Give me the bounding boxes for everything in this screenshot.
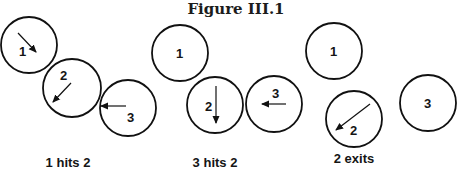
- ball-2: 2: [326, 91, 382, 147]
- ball-label: 1: [330, 44, 337, 59]
- ball-label: 3: [127, 110, 134, 125]
- figure-title: Figure III.1: [187, 0, 284, 18]
- ball-label: 1: [176, 46, 183, 61]
- ball-label: 1: [19, 44, 26, 59]
- ball-2: 2: [43, 59, 101, 117]
- ball-3: 3: [246, 76, 302, 132]
- ball-2: 2: [187, 77, 243, 133]
- ball-1: 1: [1, 17, 57, 73]
- ball-3: 3: [100, 80, 156, 136]
- panel-2: 1233 hits 2: [152, 25, 302, 170]
- ball-label: 2: [205, 99, 212, 114]
- ball-circle: [100, 80, 156, 136]
- ball-1: 1: [306, 23, 362, 79]
- ball-circle: [326, 91, 382, 147]
- collision-diagram: Figure III.1 1231 hits 21233 hits 21232 …: [0, 0, 459, 172]
- panel-caption: 2 exits: [334, 151, 374, 166]
- panel-1: 1231 hits 2: [1, 17, 156, 170]
- panel-caption: 1 hits 2: [46, 155, 91, 170]
- ball-label: 3: [272, 86, 279, 101]
- ball-label: 2: [350, 123, 357, 138]
- ball-circle: [187, 77, 243, 133]
- panel-caption: 3 hits 2: [193, 155, 238, 170]
- figure-iii-1: Figure III.1 1231 hits 21233 hits 21232 …: [0, 0, 459, 172]
- panel-3: 1232 exits: [306, 23, 456, 166]
- ball-3: 3: [400, 75, 456, 131]
- ball-label: 2: [60, 68, 67, 83]
- ball-label: 3: [424, 96, 431, 111]
- panels: 1231 hits 21233 hits 21232 exits: [1, 17, 456, 170]
- ball-1: 1: [152, 25, 208, 81]
- velocity-arrow-icon: [53, 83, 71, 102]
- ball-circle: [43, 59, 101, 117]
